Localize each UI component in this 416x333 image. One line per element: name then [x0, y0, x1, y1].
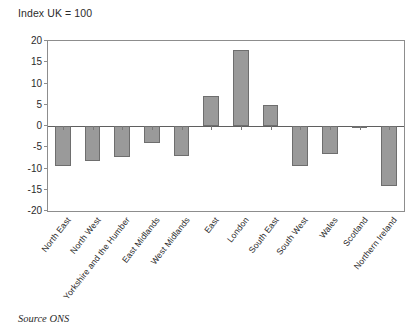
zero-baseline — [48, 126, 404, 127]
y-axis-tick-label: 10 — [31, 77, 42, 88]
x-axis-tick — [271, 126, 272, 130]
x-axis-tick — [241, 126, 242, 130]
source-note: Source ONS — [18, 313, 69, 324]
bar — [292, 126, 307, 166]
x-axis-tick — [63, 126, 64, 130]
chart-figure: Index UK = 100 20151050-5-10-15-20 North… — [0, 0, 416, 333]
x-axis-category-label: Wales — [317, 215, 340, 240]
bar — [174, 126, 189, 156]
chart-title: Index UK = 100 — [18, 7, 92, 19]
bar — [322, 126, 337, 154]
x-axis-tick — [152, 126, 153, 130]
x-axis-tick — [211, 126, 212, 130]
x-axis-tick — [93, 126, 94, 130]
x-axis-category-label: East — [202, 215, 221, 235]
bar — [233, 50, 248, 127]
bar — [55, 126, 70, 166]
y-axis-tick-label: -10 — [28, 162, 42, 173]
x-axis-tick — [182, 126, 183, 130]
x-axis-tick — [330, 126, 331, 130]
x-axis-labels: North EastNorth WestYorkshire and the Hu… — [47, 215, 405, 325]
y-axis-tick-label: 5 — [36, 98, 42, 109]
x-axis-category-label: London — [225, 215, 251, 244]
bar — [85, 126, 100, 161]
x-axis-tick — [389, 126, 390, 130]
x-axis-category-label: Scotland — [340, 215, 369, 248]
plot-area — [47, 40, 405, 212]
bar — [381, 126, 396, 186]
x-axis-tick — [300, 126, 301, 130]
y-axis-tick-label: -20 — [28, 205, 42, 216]
bar — [203, 96, 218, 126]
y-axis-tick-label: -15 — [28, 183, 42, 194]
bar — [263, 105, 278, 126]
x-axis-tick — [360, 126, 361, 130]
y-axis-tick-label: 20 — [31, 35, 42, 46]
plot-inner — [48, 41, 404, 211]
x-axis-tick — [122, 126, 123, 130]
bar — [114, 126, 129, 157]
y-axis-tick-label: -5 — [33, 141, 42, 152]
y-axis-tick-label: 15 — [31, 56, 42, 67]
y-axis-tick-label: 0 — [36, 120, 42, 131]
